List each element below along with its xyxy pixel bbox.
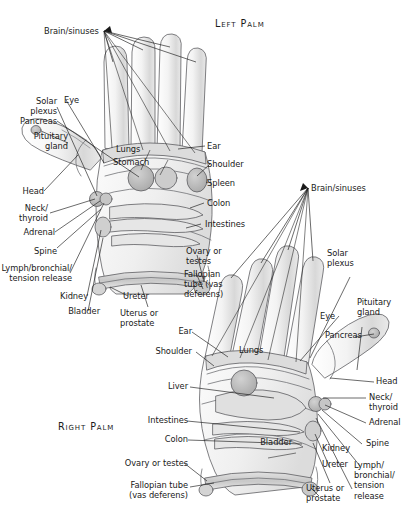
label-left-head: Head	[0, 186, 44, 196]
label-right-shoulder: Shoulder	[140, 346, 192, 356]
label-right-liver: Liver	[144, 381, 188, 391]
right-palm-title: Right Palm	[58, 421, 114, 432]
label-left-lungs: Lungs	[116, 144, 140, 154]
label-right-kidney: Kidney	[322, 443, 350, 453]
label-right-pancreas: Pancreas	[325, 330, 362, 340]
label-right-brain-sinuses: Brain/sinuses	[311, 183, 366, 193]
label-right-fallopian-tube: Fallopian tube (vas deferens)	[95, 480, 188, 500]
label-left-shoulder: Shoulder	[207, 159, 244, 169]
reflexology-hand-chart: Left Palm Right Palm Brain/sinuses Solar…	[0, 0, 410, 523]
label-left-intestines: Intestines	[205, 219, 245, 229]
label-left-fallopian-tube: Fallopian tube (vas deferens)	[184, 269, 223, 300]
label-right-bladder: Bladder	[236, 437, 292, 447]
label-left-spine: Spine	[0, 246, 57, 256]
label-right-intestines: Intestines	[128, 415, 188, 425]
right-hand-illustration	[199, 246, 389, 496]
label-left-bladder: Bladder	[28, 306, 100, 316]
label-left-eye: Eye	[64, 95, 79, 105]
label-left-solar-plexus: Solar plexus	[0, 96, 57, 116]
label-right-pituitary-gland: Pituitary gland	[357, 297, 391, 317]
label-left-stomach: Stomach	[113, 157, 149, 167]
label-left-pituitary-gland: Pituitary gland	[0, 131, 68, 151]
label-right-eye: Eye	[320, 311, 335, 321]
label-right-ovary-testes: Ovary or testes	[105, 458, 188, 468]
label-right-spine: Spine	[366, 438, 389, 448]
label-left-ureter: Ureter	[123, 291, 149, 301]
label-right-solar-plexus: Solar plexus	[327, 248, 354, 268]
label-right-neck-thyroid: Neck/ thyroid	[369, 392, 398, 412]
label-left-pancreas: Pancreas	[0, 116, 57, 126]
label-right-lungs: Lungs	[239, 345, 263, 355]
label-left-lymph-bronchial: Lymph/bronchial/ tension release	[0, 263, 72, 283]
label-right-ureter: Ureter	[322, 459, 348, 469]
label-right-head: Head	[376, 376, 398, 386]
label-right-colon: Colon	[142, 434, 188, 444]
label-right-ear: Ear	[150, 326, 192, 336]
label-left-spleen: Spleen	[207, 178, 235, 188]
label-left-ovary-testes: Ovary or testes	[186, 246, 222, 266]
left-palm-title: Left Palm	[215, 18, 265, 29]
label-left-ear: Ear	[207, 141, 221, 151]
label-left-neck-thyroid: Neck/ thyroid	[0, 203, 48, 223]
label-left-colon: Colon	[207, 198, 230, 208]
label-right-adrenal: Adrenal	[369, 417, 400, 427]
label-right-lymph-bronchial: Lymph/ bronchial/ tension release	[354, 460, 395, 501]
label-left-adrenal: Adrenal	[0, 227, 55, 237]
label-left-kidney: Kidney	[20, 291, 88, 301]
label-left-brain-sinuses: Brain/sinuses	[44, 26, 99, 36]
label-right-uterus-prostate: Uterus or prostate	[306, 483, 344, 503]
